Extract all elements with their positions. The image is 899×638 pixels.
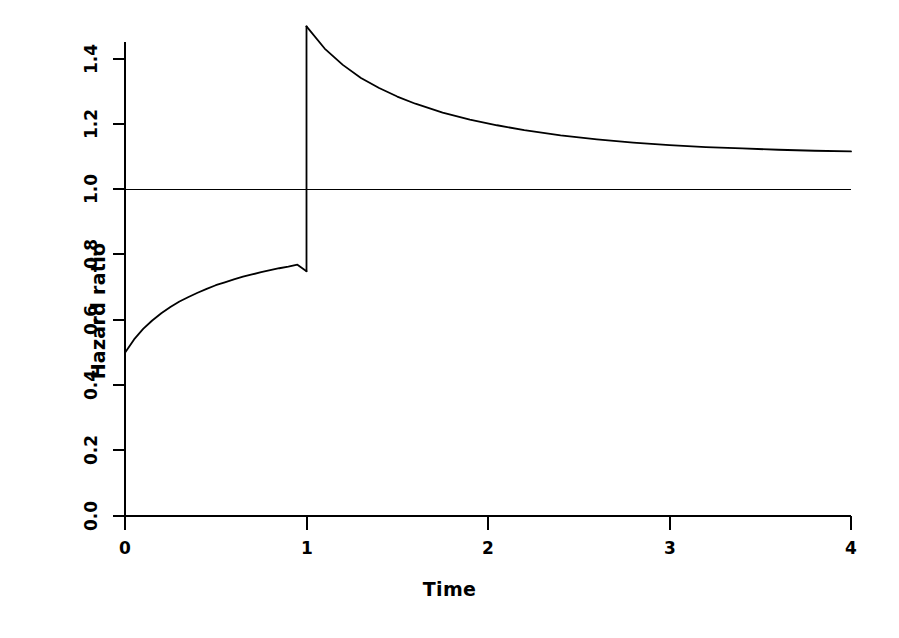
y-tick-label-1: 0.2: [81, 427, 101, 473]
y-axis-title: Hazard ratio: [87, 201, 109, 421]
y-tick-label-0: 0.0: [81, 493, 101, 539]
x-tick-label-3: 3: [650, 538, 690, 558]
x-tick-label-4: 4: [831, 538, 871, 558]
x-tick-label-0: 0: [105, 538, 145, 558]
y-tick-label-6: 1.2: [81, 101, 101, 147]
y-tick-marks: [113, 59, 125, 516]
chart-figure: 0.0 0.2 0.4 0.6 0.8 1.0 1.2 1.4 0 1 2 3 …: [0, 0, 899, 638]
y-tick-label-7: 1.4: [81, 36, 101, 82]
hazard-curve-before-jump: [125, 265, 307, 353]
x-tick-marks: [125, 516, 851, 530]
hazard-curve-after-jump: [307, 26, 852, 151]
x-axis-title: Time: [0, 578, 899, 600]
x-tick-label-2: 2: [468, 538, 508, 558]
x-tick-label-1: 1: [287, 538, 327, 558]
